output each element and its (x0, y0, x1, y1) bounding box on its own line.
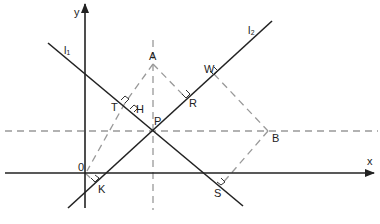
y-axis-label: y (74, 6, 80, 18)
diagram-canvas: y x 0 l₁ l₂ A B P T H R W K S (0, 0, 380, 224)
right-angle-marker-T (121, 96, 129, 103)
origin-label: 0 (78, 161, 84, 173)
point-T-label: T (111, 101, 118, 113)
right-angle-marker-S (217, 178, 225, 185)
segment-B-S (221, 131, 268, 185)
geometry-diagram: y x 0 l₁ l₂ A B P T H R W K S (0, 0, 380, 224)
line-l2 (68, 21, 272, 208)
point-R-label: R (189, 97, 197, 109)
point-S-label: S (214, 187, 221, 199)
point-H-label: H (136, 103, 144, 115)
x-axis-label: x (367, 155, 373, 167)
point-P-label: P (154, 115, 161, 127)
point-W-label: W (204, 63, 215, 75)
segment-A-T (125, 64, 153, 103)
segment-A-R (153, 64, 186, 98)
segment-W-B (214, 74, 268, 131)
point-K-label: K (98, 183, 106, 195)
line-l2-label: l₂ (248, 24, 255, 36)
point-A-label: A (149, 50, 157, 62)
line-l1-label: l₁ (64, 44, 70, 56)
point-B-label: B (272, 132, 279, 144)
